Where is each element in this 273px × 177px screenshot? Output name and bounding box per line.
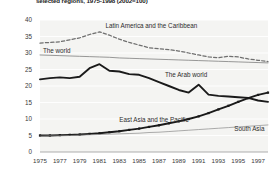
series-label: The Arab world xyxy=(165,71,207,78)
series-label: Latin America and the Caribbean xyxy=(105,22,197,29)
series-marker xyxy=(217,108,219,110)
chart-figure: selected regions, 1975-1998 (2002=100) 0… xyxy=(0,0,273,177)
series-marker xyxy=(198,115,200,117)
series-marker xyxy=(267,92,269,94)
series-label: South Asia xyxy=(234,125,264,132)
x-axis-tick-label: 1997 xyxy=(243,157,273,164)
y-axis-tick-label: 10 xyxy=(6,115,32,122)
y-axis-tick-label: 20 xyxy=(6,82,32,89)
series-marker xyxy=(108,131,110,133)
y-axis-tick-label: 40 xyxy=(6,16,32,23)
series-marker xyxy=(118,130,120,132)
series-marker xyxy=(98,132,100,134)
series-marker xyxy=(237,101,239,103)
y-axis-tick-label: 5 xyxy=(6,132,32,139)
y-axis-tick-label: 25 xyxy=(6,66,32,73)
y-axis-tick-label: 0 xyxy=(6,148,32,155)
series-marker xyxy=(207,112,209,114)
series-marker xyxy=(128,129,130,131)
y-axis-tick-label: 30 xyxy=(6,49,32,56)
series-marker xyxy=(148,126,150,128)
series-line xyxy=(40,55,268,63)
series-marker xyxy=(257,94,259,96)
series-label: East Asia and the Pacific xyxy=(119,116,188,123)
series-marker xyxy=(227,105,229,107)
y-axis-tick-label: 35 xyxy=(6,33,32,40)
series-marker xyxy=(138,127,140,129)
series-marker xyxy=(247,97,249,99)
y-axis-tick-label: 15 xyxy=(6,99,32,106)
series-marker xyxy=(158,124,160,126)
series-label: The world xyxy=(43,47,71,54)
